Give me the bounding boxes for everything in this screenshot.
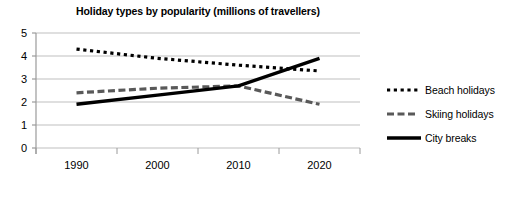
legend-item-beach-holidays: Beach holidays [386,78,504,102]
chart-container: Holiday types by popularity (millions of… [0,0,506,202]
chart-legend: Beach holidays Skiing holidays City brea… [386,78,504,150]
y-axis-label: 5 [21,27,27,39]
legend-label-city-breaks: City breaks [425,132,476,144]
y-axis-label: 1 [21,119,27,131]
legend-label-skiing-holidays: Skiing holidays [425,108,494,120]
legend-item-skiing-holidays: Skiing holidays [386,102,504,126]
x-axis-label: 1990 [64,159,88,171]
y-axis-label: 4 [21,50,27,62]
x-tick-marks [36,148,360,154]
y-axis-label: 2 [21,96,27,108]
x-axis-labels: 1990200020102020 [64,159,331,171]
y-axis-label: 0 [21,142,27,154]
solid-line-swatch [386,132,422,144]
dotted-line-swatch [386,84,422,96]
y-axis-label: 3 [21,73,27,85]
x-axis-label: 2010 [226,159,250,171]
series-lines-group [77,49,320,104]
series-line-city-breaks [77,58,320,104]
legend-item-city-breaks: City breaks [386,126,504,150]
y-axis-labels: 012345 [21,27,27,154]
x-axis-label: 2020 [307,159,331,171]
x-axis-label: 2000 [145,159,169,171]
dashed-line-swatch [386,108,422,120]
legend-label-beach-holidays: Beach holidays [425,84,495,96]
series-line-beach-holidays [77,49,320,71]
